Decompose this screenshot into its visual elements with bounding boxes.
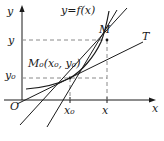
x-axis-label: x bbox=[152, 103, 158, 114]
function-curve bbox=[26, 11, 109, 89]
origin-label: O bbox=[10, 101, 19, 112]
diagram-canvas bbox=[0, 0, 164, 141]
x-tick-label-x: x bbox=[102, 105, 108, 116]
point-M0-marker bbox=[69, 77, 72, 80]
tangent-line-T bbox=[17, 42, 143, 104]
guide-lines bbox=[22, 40, 107, 100]
y-axis-label: y bbox=[7, 6, 13, 17]
derivative-diagram: y y y₀ O x₀ x x y=f(x) M M₀(x₀, y₀) T bbox=[0, 0, 164, 141]
y-axis bbox=[19, 5, 24, 100]
point-M-marker bbox=[106, 39, 109, 42]
y-tick-label-y: y bbox=[8, 35, 14, 46]
y-tick-label-y0: y₀ bbox=[5, 70, 16, 81]
curve-label: y=f(x) bbox=[61, 5, 95, 16]
tangent-label: T bbox=[142, 31, 149, 42]
point-M-label: M bbox=[99, 24, 110, 35]
point-M0-label: M₀(x₀, y₀) bbox=[28, 58, 81, 69]
x-axis bbox=[4, 97, 156, 102]
x-tick-label-x0: x₀ bbox=[64, 105, 75, 116]
